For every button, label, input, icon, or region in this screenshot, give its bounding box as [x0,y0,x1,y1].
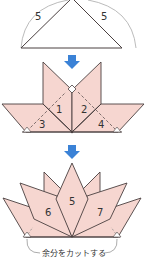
side-left-label: 5 [35,11,41,22]
label-4: 4 [98,119,104,130]
step3-lotus-figure: 5 6 7 余分をカットする [3,163,141,258]
side-right-label: 5 [101,11,107,22]
label-3: 3 [39,119,45,130]
label-6: 6 [45,207,51,218]
triangle [21,0,122,48]
caption-bracket [27,239,40,253]
label-7: 7 [97,207,103,218]
label-5: 5 [69,196,75,207]
step1-triangle-figure: 5 5 [21,0,136,48]
arrow-down-icon [64,145,80,159]
label-2: 2 [81,104,87,115]
step2-folded-figure: 1 2 3 4 [2,62,144,133]
arrow-down-icon [64,55,80,69]
cut-excess-caption: 余分をカットする [42,248,106,258]
label-1: 1 [56,104,62,115]
